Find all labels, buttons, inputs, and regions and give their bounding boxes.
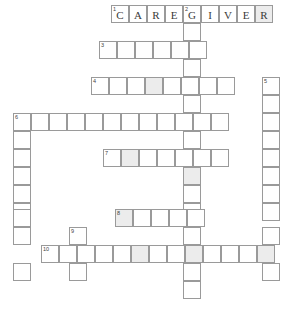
crossword-cell[interactable] <box>262 113 280 131</box>
crossword-cell[interactable] <box>183 263 201 281</box>
crossword-cell[interactable] <box>77 245 95 263</box>
crossword-letter: R <box>148 9 164 22</box>
clue-number: 8 <box>117 210 120 216</box>
crossword-cell[interactable]: 5 <box>262 77 280 95</box>
crossword-cell[interactable] <box>157 149 175 167</box>
crossword-cell[interactable] <box>133 209 151 227</box>
crossword-cell[interactable] <box>69 263 87 281</box>
crossword-grid[interactable]: 1CARE2GIVER345678910 <box>0 0 304 316</box>
crossword-cell[interactable] <box>187 209 205 227</box>
crossword-cell[interactable] <box>153 41 171 59</box>
crossword-cell[interactable]: E <box>237 5 255 23</box>
crossword-cell[interactable] <box>262 131 280 149</box>
crossword-cell[interactable] <box>49 113 67 131</box>
crossword-letter: R <box>256 9 272 22</box>
crossword-cell[interactable] <box>183 131 201 149</box>
crossword-cell[interactable] <box>185 245 203 263</box>
crossword-cell[interactable] <box>13 131 31 149</box>
crossword-letter: A <box>130 9 146 22</box>
crossword-cell[interactable] <box>262 263 280 281</box>
crossword-letter: E <box>166 9 182 22</box>
crossword-cell[interactable] <box>211 113 229 131</box>
crossword-cell[interactable]: 6 <box>13 113 31 131</box>
crossword-cell[interactable] <box>211 149 229 167</box>
crossword-cell[interactable] <box>117 41 135 59</box>
crossword-cell[interactable] <box>151 209 169 227</box>
crossword-cell[interactable]: 1C <box>111 5 129 23</box>
crossword-cell[interactable] <box>183 95 201 113</box>
clue-number: 9 <box>71 228 74 234</box>
crossword-cell[interactable] <box>127 77 145 95</box>
crossword-letter: I <box>202 9 218 22</box>
crossword-cell[interactable]: 10 <box>41 245 59 263</box>
crossword-letter: G <box>184 9 200 22</box>
crossword-cell[interactable] <box>193 149 211 167</box>
crossword-cell[interactable] <box>183 185 201 203</box>
crossword-cell[interactable] <box>183 227 201 245</box>
crossword-cell[interactable] <box>109 77 127 95</box>
crossword-cell[interactable]: 3 <box>99 41 117 59</box>
crossword-cell[interactable] <box>189 41 207 59</box>
crossword-cell[interactable] <box>13 209 31 227</box>
crossword-cell[interactable] <box>139 113 157 131</box>
crossword-cell[interactable]: 2G <box>183 5 201 23</box>
crossword-cell[interactable] <box>257 245 275 263</box>
crossword-cell[interactable] <box>149 245 167 263</box>
crossword-cell[interactable] <box>31 113 49 131</box>
crossword-cell[interactable] <box>95 245 113 263</box>
crossword-cell[interactable] <box>262 227 280 245</box>
crossword-cell[interactable] <box>183 167 201 185</box>
crossword-cell[interactable] <box>203 245 221 263</box>
crossword-cell[interactable] <box>171 41 189 59</box>
crossword-cell[interactable]: A <box>129 5 147 23</box>
crossword-cell[interactable] <box>85 113 103 131</box>
crossword-cell[interactable] <box>221 245 239 263</box>
crossword-cell[interactable] <box>262 167 280 185</box>
crossword-cell[interactable] <box>183 23 201 41</box>
crossword-cell[interactable] <box>13 149 31 167</box>
crossword-cell[interactable] <box>169 209 187 227</box>
crossword-cell[interactable] <box>199 77 217 95</box>
crossword-cell[interactable] <box>262 149 280 167</box>
crossword-cell[interactable] <box>121 149 139 167</box>
crossword-cell[interactable] <box>59 245 77 263</box>
crossword-cell[interactable] <box>262 95 280 113</box>
crossword-cell[interactable] <box>181 77 199 95</box>
crossword-cell[interactable] <box>13 185 31 203</box>
crossword-cell[interactable] <box>139 149 157 167</box>
crossword-cell[interactable]: 7 <box>103 149 121 167</box>
crossword-cell[interactable]: I <box>201 5 219 23</box>
crossword-cell[interactable] <box>239 245 257 263</box>
crossword-cell[interactable]: 9 <box>69 227 87 245</box>
crossword-cell[interactable]: R <box>147 5 165 23</box>
crossword-cell[interactable]: 4 <box>91 77 109 95</box>
crossword-cell[interactable] <box>167 245 185 263</box>
crossword-cell[interactable] <box>13 167 31 185</box>
crossword-cell[interactable] <box>183 59 201 77</box>
crossword-cell[interactable] <box>193 113 211 131</box>
crossword-cell[interactable] <box>262 203 280 221</box>
crossword-cell[interactable] <box>67 113 85 131</box>
crossword-cell[interactable] <box>13 227 31 245</box>
crossword-cell[interactable]: V <box>219 5 237 23</box>
crossword-cell[interactable] <box>135 41 153 59</box>
crossword-cell[interactable] <box>217 77 235 95</box>
crossword-cell[interactable] <box>121 113 139 131</box>
crossword-cell[interactable] <box>13 263 31 281</box>
crossword-cell[interactable] <box>183 281 201 299</box>
crossword-cell[interactable] <box>157 113 175 131</box>
crossword-cell[interactable] <box>163 77 181 95</box>
crossword-letter: C <box>112 9 128 22</box>
crossword-cell[interactable] <box>175 113 193 131</box>
crossword-cell[interactable] <box>113 245 131 263</box>
crossword-cell[interactable] <box>145 77 163 95</box>
crossword-letter: E <box>238 9 254 22</box>
crossword-cell[interactable] <box>175 149 193 167</box>
crossword-cell[interactable] <box>262 185 280 203</box>
crossword-cell[interactable]: R <box>255 5 273 23</box>
clue-number: 4 <box>93 78 96 84</box>
crossword-cell[interactable]: 8 <box>115 209 133 227</box>
crossword-cell[interactable] <box>131 245 149 263</box>
crossword-cell[interactable]: E <box>165 5 183 23</box>
crossword-cell[interactable] <box>103 113 121 131</box>
